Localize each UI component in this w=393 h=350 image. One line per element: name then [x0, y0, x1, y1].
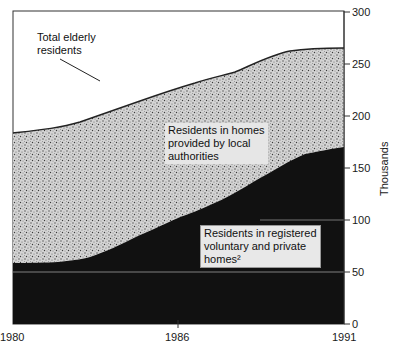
la-label-line3: authorities — [168, 150, 265, 163]
y-tick-labels: 300 250 200 150 100 50 0 — [352, 6, 370, 330]
priv-label-line2: voluntary and private — [204, 240, 317, 253]
svg-text:50: 50 — [352, 266, 364, 278]
svg-text:250: 250 — [352, 58, 370, 70]
svg-text:1991: 1991 — [332, 331, 356, 343]
y-axis-label: Thousands — [378, 142, 390, 196]
total-elderly-label: Total elderly residents — [37, 31, 96, 57]
private-homes-label: Residents in registered voluntary and pr… — [200, 225, 321, 268]
local-authority-label: Residents in homes provided by local aut… — [165, 123, 268, 164]
svg-text:300: 300 — [352, 6, 370, 18]
priv-label-line1: Residents in registered — [204, 227, 317, 240]
x-tick-labels: 1980 1986 1991 — [0, 331, 356, 343]
svg-text:1986: 1986 — [165, 331, 189, 343]
svg-text:0: 0 — [352, 318, 358, 330]
priv-label-line3: homes² — [204, 253, 317, 266]
svg-text:200: 200 — [352, 110, 370, 122]
svg-text:100: 100 — [352, 214, 370, 226]
svg-text:150: 150 — [352, 162, 370, 174]
la-label-line1: Residents in homes — [168, 124, 265, 137]
total-label-line1: Total elderly — [37, 31, 96, 44]
y-ticks — [344, 12, 350, 324]
la-label-line2: provided by local — [168, 137, 265, 150]
svg-text:1980: 1980 — [0, 331, 24, 343]
total-label-line2: residents — [37, 44, 96, 57]
